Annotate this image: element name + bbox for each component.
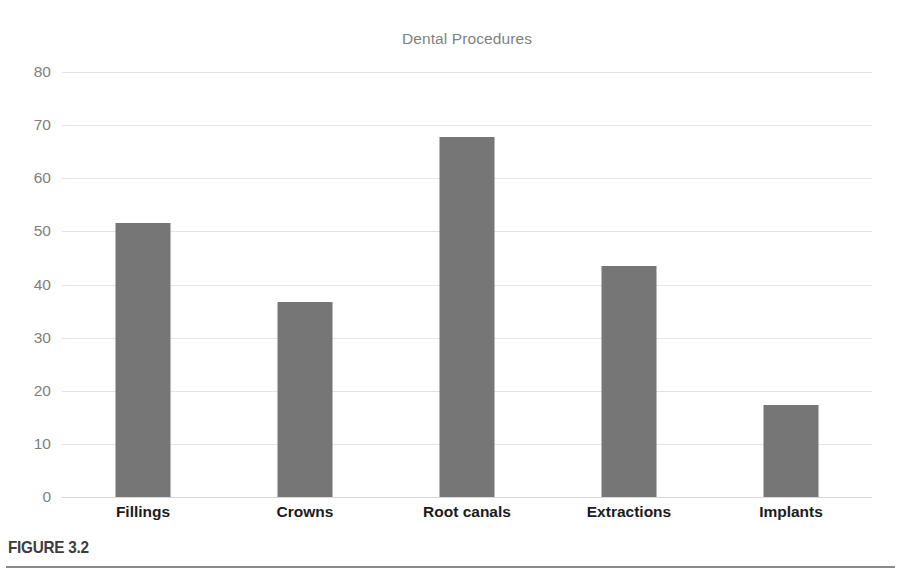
y-tick-label-70: 70 (34, 117, 51, 133)
x-label-extractions: Extractions (548, 503, 710, 521)
x-axis-labels: FillingsCrownsRoot canalsExtractionsImpl… (62, 503, 872, 533)
y-tick-label-20: 20 (34, 383, 51, 399)
x-label-implants: Implants (710, 503, 872, 521)
y-tick-label-80: 80 (34, 64, 51, 80)
x-label-root-canals: Root canals (386, 503, 548, 521)
bar-crowns[interactable] (278, 302, 333, 497)
bar-slot (62, 72, 224, 497)
bar-root-canals[interactable] (440, 137, 495, 497)
bar-implants[interactable] (764, 405, 819, 497)
figure-container: Dental Procedures 01020304050607080 Fill… (0, 0, 901, 587)
y-tick-label-10: 10 (34, 436, 51, 452)
y-tick-label-60: 60 (34, 171, 51, 187)
bar-slot (710, 72, 872, 497)
figure-caption-label: FIGURE 3.2 (8, 538, 89, 558)
y-tick-label-0: 0 (42, 489, 51, 505)
bar-slot (548, 72, 710, 497)
plot-area: 01020304050607080 (62, 72, 872, 497)
x-label-fillings: Fillings (62, 503, 224, 521)
y-tick-label-50: 50 (34, 224, 51, 240)
bar-slot (224, 72, 386, 497)
caption-divider (6, 566, 895, 568)
y-tick-label-30: 30 (34, 330, 51, 346)
bars-group (62, 72, 872, 497)
x-label-crowns: Crowns (224, 503, 386, 521)
chart-title: Dental Procedures (62, 30, 872, 48)
y-tick-label-40: 40 (34, 277, 51, 293)
bar-extractions[interactable] (602, 266, 657, 497)
bar-fillings[interactable] (116, 223, 171, 497)
bar-chart: Dental Procedures 01020304050607080 Fill… (0, 0, 901, 540)
gridline-0 (62, 497, 872, 498)
bar-slot (386, 72, 548, 497)
